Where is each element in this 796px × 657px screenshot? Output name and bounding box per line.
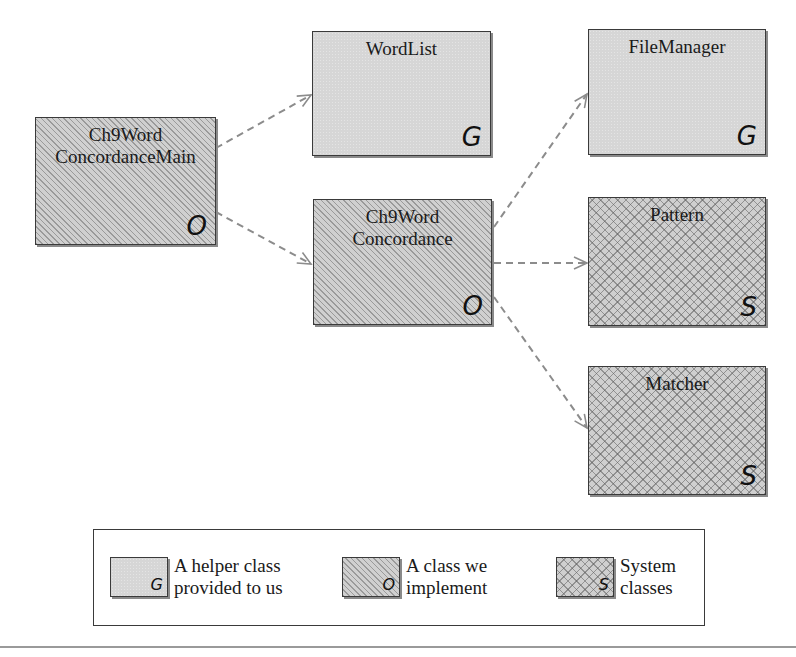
class-name: WordList [313,38,490,60]
edge-concordance-to-matcher [494,297,587,428]
badge-o-icon: O [187,212,207,240]
legend: G A helper class provided to us O A clas… [93,529,705,626]
legend-label: A class we implement [406,555,487,599]
badge-s-icon: S [740,462,757,490]
badge-s-icon: S [599,576,609,594]
class-box-matcher: Matcher S [588,366,766,495]
legend-swatch-implement: O [342,557,400,597]
badge-o-icon: O [463,292,483,320]
badge-g-icon: G [462,123,482,151]
edge-main-to-concordance [216,212,311,264]
class-name: Matcher [589,373,765,395]
class-box-pattern: Pattern S [588,197,766,326]
class-box-filemanager: FileManager G [588,29,766,155]
class-name: Pattern [589,204,765,226]
badge-o-icon: O [382,576,395,594]
class-box-ch9wordconcordance: Ch9Word Concordance O [313,199,492,325]
badge-s-icon: S [740,293,757,321]
edge-concordance-to-filemanager [494,94,587,227]
legend-label: A helper class provided to us [174,555,283,599]
class-name: FileManager [589,36,765,58]
legend-swatch-helper: G [110,557,168,597]
legend-label: System classes [620,555,676,599]
badge-g-icon: G [151,576,163,594]
legend-swatch-system: S [556,557,614,597]
class-box-wordlist: WordList G [312,31,491,156]
class-name: Ch9Word ConcordanceMain [36,124,215,168]
class-name: Ch9Word Concordance [314,206,491,250]
badge-g-icon: G [737,122,757,150]
edge-main-to-wordlist [216,95,311,148]
bottom-divider [0,646,796,648]
class-box-ch9wordconcordancemain: Ch9Word ConcordanceMain O [35,117,216,245]
